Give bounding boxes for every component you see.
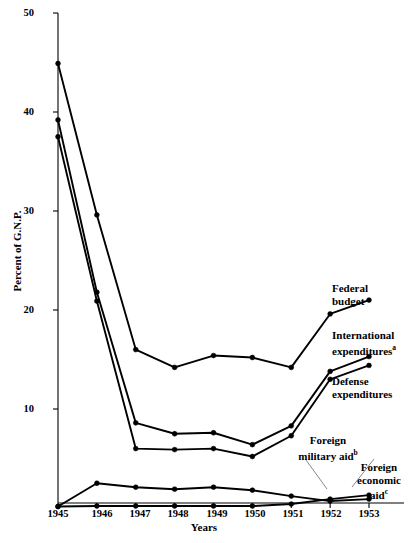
y-tick-label-50: 50	[0, 7, 34, 18]
series-line	[58, 137, 369, 457]
data-point	[94, 299, 99, 304]
series-label-foreign-mil-line2: military aid	[298, 449, 353, 461]
data-point	[94, 481, 99, 486]
y-tick-label-10: 10	[0, 403, 34, 414]
data-point	[250, 442, 255, 447]
data-point	[133, 485, 138, 490]
series-label-federal-budget-line1: Federal	[332, 282, 368, 294]
leader-line-foreign-military-aid	[306, 460, 327, 489]
data-point	[289, 365, 294, 370]
y-tick-label-20: 20	[0, 304, 34, 315]
chart-figure: 50 40 30 20 10 1945 1946 1947 1948 1949 …	[0, 0, 408, 543]
series-label-foreign-econ-line3: aid	[370, 489, 385, 501]
data-point	[250, 355, 255, 360]
series-label-defense-expenditures: Defense expenditures	[332, 375, 392, 400]
x-tick-label-1945: 1945	[35, 508, 81, 519]
x-tick-label-1953: 1953	[346, 508, 392, 519]
cropped-header-text	[0, 0, 408, 2]
data-point	[133, 446, 138, 451]
y-tick-label-40: 40	[0, 106, 34, 117]
data-point	[211, 353, 216, 358]
series-line	[58, 120, 369, 445]
series-label-defense-line2: expenditures	[332, 388, 392, 400]
data-point	[289, 494, 294, 499]
series-label-defense-line1: Defense	[332, 375, 369, 387]
series-label-international-line2: expenditures	[332, 344, 392, 356]
series-label-foreign-economic-aid: Foreign economic aidc	[348, 461, 408, 501]
series-label-foreign-econ-line2: economic	[357, 474, 401, 486]
series-line	[58, 63, 369, 367]
data-point	[328, 312, 333, 317]
data-point	[133, 420, 138, 425]
data-point	[172, 447, 177, 452]
series-label-international-expenditures: International expendituresa	[332, 329, 396, 357]
data-point	[211, 430, 216, 435]
data-point	[56, 134, 61, 139]
series-label-foreign-mil-line1: Foreign	[310, 434, 346, 446]
data-point	[56, 61, 61, 66]
data-point	[250, 488, 255, 493]
data-point	[250, 454, 255, 459]
footnote-marker-b: b	[354, 448, 358, 457]
data-point	[56, 118, 61, 123]
series-label-federal-budget: Federal budget	[332, 282, 368, 307]
data-point	[94, 213, 99, 218]
data-point	[328, 369, 333, 374]
data-point	[328, 499, 333, 504]
data-point	[172, 431, 177, 436]
x-axis-title: Years	[0, 521, 408, 533]
series-label-foreign-econ-line1: Foreign	[361, 461, 397, 473]
y-axis-title: Percent of G.N.P.	[11, 201, 23, 301]
data-point	[211, 446, 216, 451]
series-international-expenditures	[56, 118, 372, 448]
data-point	[172, 487, 177, 492]
data-point	[133, 347, 138, 352]
footnote-marker-c: c	[385, 487, 388, 496]
y-tick-marks	[53, 13, 58, 409]
data-point	[289, 502, 294, 507]
data-point	[367, 363, 372, 368]
series-defense-expenditures	[56, 134, 372, 459]
data-point	[172, 365, 177, 370]
series-label-international-line1: International	[332, 329, 394, 341]
series-label-federal-budget-line2: budget	[332, 295, 364, 307]
data-point	[289, 423, 294, 428]
series-label-foreign-military-aid: Foreign military aidb	[286, 434, 370, 462]
data-point	[211, 485, 216, 490]
footnote-marker-a: a	[392, 343, 396, 352]
